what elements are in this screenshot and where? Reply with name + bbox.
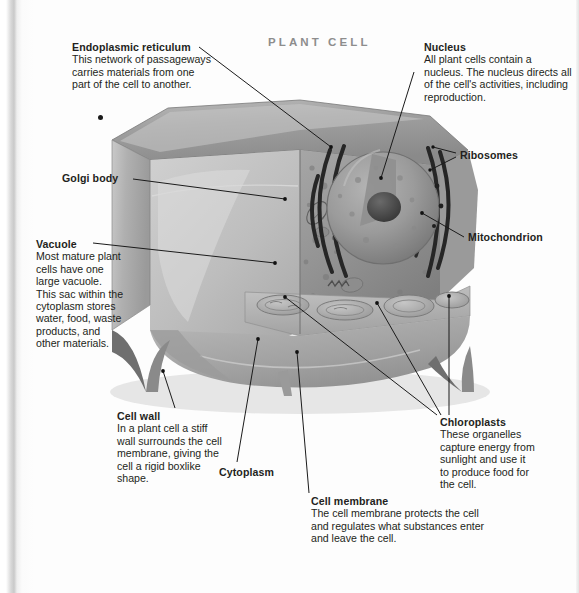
leader-dot-ribosomes-2 (428, 168, 431, 171)
callout-heading-mitochondrion: Mitochondrion (468, 231, 543, 243)
leader-dot-mitochondrion (420, 211, 424, 215)
callout-endoplasmic-reticulum: Endoplasmic reticulum This network of pa… (72, 41, 214, 91)
leader-golgi-body (133, 179, 285, 199)
leader-chloroplasts-1 (285, 297, 437, 415)
leader-chloroplasts-2 (377, 303, 441, 415)
callout-vacuole: Vacuole Most mature plant cells have one… (36, 238, 124, 350)
callout-body-nucleus: All plant cells contain a nucleus. The n… (424, 53, 572, 103)
leader-cytoplasm (237, 339, 258, 462)
leader-ribosomes-1 (433, 147, 456, 153)
leader-dot-chloroplasts-3 (447, 294, 451, 298)
callout-heading-endoplasmic-reticulum: Endoplasmic reticulum (72, 41, 214, 53)
leader-cell-wall (163, 371, 175, 408)
callout-body-cell-wall: In a plant cell a stiff wall surrounds t… (117, 422, 225, 484)
callout-body-endoplasmic-reticulum: This network of passageways carries mate… (72, 53, 214, 90)
callout-cell-membrane: Cell membrane The cell membrane protects… (311, 495, 487, 545)
leader-ribosomes-2 (430, 157, 456, 170)
callout-heading-vacuole: Vacuole (36, 238, 124, 250)
callout-body-chloroplasts: These organelles capture energy from sun… (440, 428, 536, 490)
scanned-page: PLANT CELL Endoplasmic reticulum This ne… (0, 0, 579, 593)
leader-dot-chloroplasts-1 (283, 295, 287, 299)
leader-dot-endoplasmic-reticulum (329, 145, 333, 149)
callout-heading-cytoplasm: Cytoplasm (219, 466, 274, 478)
callout-body-vacuole: Most mature plant cells have one large v… (36, 250, 124, 349)
callout-heading-golgi-body: Golgi body (62, 172, 118, 184)
callout-heading-cell-membrane: Cell membrane (311, 495, 487, 507)
leader-dot-cell-membrane (295, 350, 299, 354)
callout-heading-cell-wall: Cell wall (117, 410, 225, 422)
callout-heading-chloroplasts: Chloroplasts (440, 416, 536, 428)
callout-cell-wall: Cell wall In a plant cell a stiff wall s… (117, 410, 225, 484)
leader-dot-cytoplasm (256, 337, 260, 341)
leader-dot-chloroplasts-2 (375, 301, 379, 305)
callout-chloroplasts: Chloroplasts These organelles capture en… (440, 416, 536, 490)
leader-dot-vacuole (273, 261, 277, 265)
callout-heading-ribosomes: Ribosomes (460, 149, 518, 161)
scan-speck (98, 115, 103, 120)
page-title: PLANT CELL (268, 36, 371, 48)
leader-endoplasmic-reticulum (199, 47, 331, 147)
leader-dot-golgi-body (283, 197, 287, 201)
leader-dot-cell-wall (161, 369, 165, 373)
leader-nucleus (381, 72, 414, 178)
leader-dot-ribosomes-1 (431, 145, 434, 148)
leader-cell-membrane (297, 352, 309, 493)
leader-mitochondrion (422, 213, 464, 237)
callout-heading-nucleus: Nucleus (424, 41, 572, 53)
callout-nucleus: Nucleus All plant cells contain a nucleu… (424, 41, 572, 103)
callout-body-cell-membrane: The cell membrane protects the cell and … (311, 507, 487, 544)
leader-dot-nucleus (379, 176, 383, 180)
